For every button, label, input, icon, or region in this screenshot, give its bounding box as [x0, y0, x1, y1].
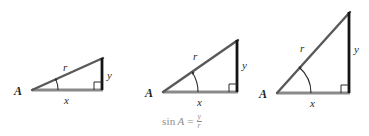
triangle-medium	[163, 40, 238, 92]
triangle-medium-vertex-label: A	[145, 87, 153, 99]
sine-fraction: y r	[196, 113, 201, 130]
triangle-shallow-vertical-label: y	[107, 70, 112, 81]
triangle-shallow-base-label: x	[64, 95, 69, 106]
triangle-shallow-vertex-label: A	[14, 85, 22, 97]
triangle-steep	[277, 12, 350, 93]
sine-argument: A	[177, 115, 184, 127]
triangle-shallow-hypotenuse	[32, 58, 103, 90]
triangle-shallow-angle-arc	[56, 79, 58, 90]
triangle-steep-hypotenuse	[277, 12, 350, 93]
sine-function-name: sin	[162, 115, 175, 127]
triangle-steep-hypotenuse-label: r	[300, 43, 304, 54]
triangle-shallow-hypotenuse-label: r	[63, 62, 67, 73]
fraction-numerator: y	[196, 113, 201, 121]
triangle-medium-base-label: x	[197, 97, 202, 108]
triangle-medium-angle-arc	[193, 73, 199, 92]
triangle-medium-vertical-label: y	[242, 60, 247, 71]
triangle-steep-vertical-label: y	[354, 44, 359, 55]
triangle-steep-angle-arc	[300, 68, 312, 94]
triangle-steep-base-label: x	[310, 98, 315, 109]
equals-sign: =	[187, 115, 193, 127]
triangle-shallow	[32, 58, 103, 90]
trig-figure: A r x y A r x y A r x y sin A = y r	[0, 0, 369, 136]
triangle-steep-vertex-label: A	[259, 88, 267, 100]
triangle-medium-hypotenuse-label: r	[193, 51, 197, 62]
fraction-denominator: r	[197, 121, 202, 130]
sine-formula: sin A = y r	[162, 113, 202, 130]
triangle-medium-hypotenuse	[163, 40, 238, 92]
